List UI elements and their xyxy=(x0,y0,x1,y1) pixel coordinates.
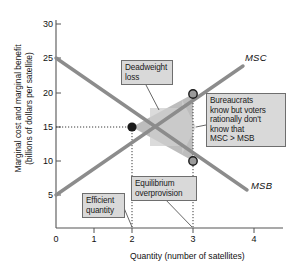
leader-efficient xyxy=(124,208,132,227)
x-tick-marks xyxy=(94,228,254,233)
annotation-efficient-quantity: Efficient quantity xyxy=(82,193,125,218)
point-msc-at-overprovision xyxy=(189,90,197,98)
leader-bureaucrats xyxy=(196,125,206,127)
y-tick-label-10: 10 xyxy=(33,156,53,166)
leader-deadweight xyxy=(146,85,159,110)
y-axis-title: Marginal cost and marginal benefit (bill… xyxy=(13,16,34,202)
point-efficient-equilibrium xyxy=(127,122,136,131)
y-tick-marks xyxy=(56,24,61,195)
x-tick-label-0: 0 xyxy=(49,234,63,244)
point-msb-at-overprovision xyxy=(189,157,197,165)
y-tick-label-15: 15 xyxy=(33,122,53,132)
y-tick-label-20: 20 xyxy=(33,88,53,98)
annotation-bureaucrats-note: Bureaucrats know but voters rationally d… xyxy=(206,93,286,147)
curve-label-msb: MSB xyxy=(251,180,272,191)
x-tick-label-2: 2 xyxy=(125,234,139,244)
x-tick-label-3: 3 xyxy=(186,234,200,244)
x-tick-label-1: 1 xyxy=(87,234,101,244)
x-tick-label-4: 4 xyxy=(247,234,261,244)
annotation-equilibrium-overprovision: Equilibrium overprovision xyxy=(131,176,197,201)
annotation-deadweight-loss: Deadweight loss xyxy=(121,60,173,85)
curve-label-msc: MSC xyxy=(245,52,267,63)
leader-equilibrium xyxy=(163,197,192,227)
y-tick-label-5: 5 xyxy=(33,190,53,200)
x-axis-title: Quantity (number of satellites) xyxy=(130,251,245,261)
y-tick-label-30: 30 xyxy=(33,19,53,29)
y-tick-label-25: 25 xyxy=(33,53,53,63)
chart-figure: 30 25 20 15 10 5 0 1 2 3 4 MSC MSB Margi… xyxy=(0,0,289,267)
